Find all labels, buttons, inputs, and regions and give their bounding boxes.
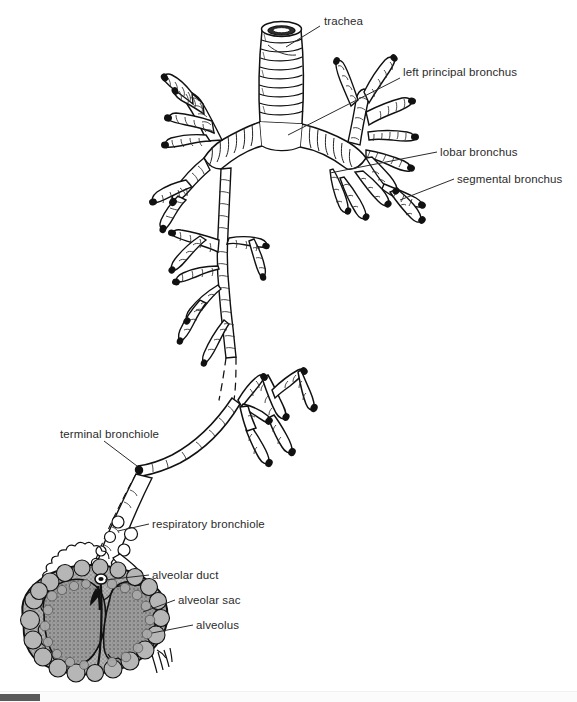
label-lobar-bronchus: lobar bronchus bbox=[440, 146, 517, 159]
label-alveolar-duct: alveolar duct bbox=[152, 569, 219, 582]
horizontal-scrollbar[interactable] bbox=[0, 691, 577, 702]
label-segmental-bronchus: segmental bronchus bbox=[457, 173, 562, 186]
label-left-principal-bronchus: left principal bronchus bbox=[403, 66, 517, 79]
label-trachea: trachea bbox=[324, 15, 363, 28]
bronchial-tree-diagram bbox=[0, 0, 577, 691]
image-viewer[interactable]: trachea left principal bronchus lobar br… bbox=[0, 0, 577, 691]
trachea-structure bbox=[259, 22, 303, 125]
horizontal-scrollbar-thumb[interactable] bbox=[0, 694, 40, 701]
label-respiratory-bronchiole: respiratory bronchiole bbox=[152, 518, 265, 531]
label-terminal-bronchiole: terminal bronchiole bbox=[60, 428, 159, 441]
label-alveolus: alveolus bbox=[196, 619, 239, 632]
label-alveolar-sac: alveolar sac bbox=[178, 594, 241, 607]
